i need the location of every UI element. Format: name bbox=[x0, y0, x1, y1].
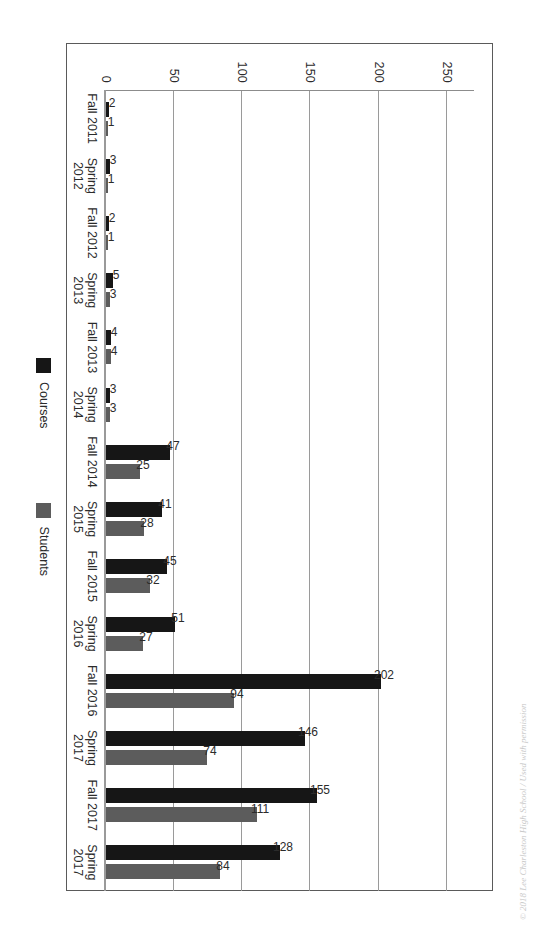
category-label: Spring 2013 bbox=[70, 258, 99, 322]
legend-label: Students bbox=[37, 527, 51, 576]
bar-group: 21Fall 2012 bbox=[106, 216, 474, 250]
bar-value-label: 5 bbox=[112, 269, 119, 281]
bar-value-label: 41 bbox=[158, 498, 171, 510]
axis-tick-label: 0 bbox=[99, 76, 113, 83]
bar-students: 3 bbox=[106, 407, 110, 422]
legend-swatch-icon bbox=[36, 358, 51, 373]
category-label: Fall 2012 bbox=[84, 201, 98, 265]
bar-group: 21Fall 2011 bbox=[106, 102, 474, 136]
bar-group: 31Spring 2012 bbox=[106, 159, 474, 193]
category-label: Fall 2015 bbox=[84, 544, 98, 608]
legend-item-students[interactable]: Students bbox=[36, 503, 51, 576]
bar-value-label: 3 bbox=[109, 288, 116, 300]
axis-tick-label: 250 bbox=[439, 62, 453, 83]
category-label: Spring 2017 bbox=[70, 716, 99, 780]
bar-value-label: 51 bbox=[171, 612, 184, 624]
category-label: Spring 2016 bbox=[70, 602, 99, 666]
bar-value-label: 3 bbox=[109, 383, 116, 395]
bar-value-label: 4 bbox=[111, 345, 118, 357]
bar-group: 155111Fall 2017 bbox=[106, 788, 474, 822]
bar-students: 28 bbox=[106, 521, 144, 536]
bar-value-label: 111 bbox=[251, 803, 269, 815]
bar-students: 74 bbox=[106, 750, 207, 765]
bars-layer: 21Fall 201131Spring 201221Fall 201253Spr… bbox=[106, 90, 474, 891]
bar-value-label: 155 bbox=[310, 784, 330, 796]
bar-value-label: 128 bbox=[273, 841, 293, 853]
plot-area: 050100150200250 21Fall 201131Spring 2012… bbox=[67, 44, 492, 890]
bar-group: 14674Spring 2017 bbox=[106, 731, 474, 765]
chart-plot-frame: 050100150200250 21Fall 201131Spring 2012… bbox=[66, 43, 493, 891]
bar-value-label: 74 bbox=[203, 745, 216, 757]
bar-courses: 41 bbox=[106, 502, 162, 517]
category-label: Spring 2015 bbox=[70, 487, 99, 551]
bar-value-label: 1 bbox=[107, 116, 114, 128]
bar-group: 12884Spring 2017 bbox=[106, 845, 474, 879]
category-label: Fall 2017 bbox=[84, 773, 98, 837]
bar-group: 33Spring 2014 bbox=[106, 388, 474, 422]
bar-courses: 155 bbox=[106, 788, 317, 803]
bar-students: 111 bbox=[106, 807, 257, 822]
bar-value-label: 4 bbox=[111, 326, 118, 338]
axis-tick-label: 150 bbox=[303, 62, 317, 83]
bar-students: 1 bbox=[106, 121, 108, 136]
axis-tick-label: 100 bbox=[235, 62, 249, 83]
bar-value-label: 2 bbox=[108, 212, 115, 224]
footnote: © 2018 Lee Charleston High School / Used… bbox=[505, 630, 531, 930]
category-label: Fall 2016 bbox=[84, 659, 98, 723]
bar-students: 32 bbox=[106, 578, 150, 593]
bar-students: 4 bbox=[106, 349, 111, 364]
category-label: Spring 2017 bbox=[70, 830, 99, 894]
bar-value-label: 2 bbox=[108, 97, 115, 109]
bar-group: 4128Spring 2015 bbox=[106, 502, 474, 536]
page-canvas: 050100150200250 21Fall 201131Spring 2012… bbox=[0, 0, 533, 934]
bar-students: 84 bbox=[106, 864, 220, 879]
category-label: Spring 2014 bbox=[70, 373, 99, 437]
axis-tick-label: 200 bbox=[371, 62, 385, 83]
bar-students: 25 bbox=[106, 464, 140, 479]
bar-value-label: 25 bbox=[136, 459, 149, 471]
bar-group: 5127Spring 2016 bbox=[106, 617, 474, 651]
bar-value-label: 45 bbox=[163, 555, 176, 567]
bar-value-label: 1 bbox=[107, 231, 114, 243]
bar-courses: 5 bbox=[106, 273, 113, 288]
chart-legend: CoursesStudents bbox=[31, 43, 57, 891]
category-label: Fall 2014 bbox=[84, 430, 98, 494]
bar-students: 1 bbox=[106, 178, 108, 193]
category-label: Fall 2013 bbox=[84, 315, 98, 379]
bar-students: 3 bbox=[106, 292, 110, 307]
category-label: Spring 2012 bbox=[70, 144, 99, 208]
bar-courses: 2 bbox=[106, 216, 109, 231]
legend-swatch-icon bbox=[36, 503, 51, 518]
bar-group: 20294Fall 2016 bbox=[106, 674, 474, 708]
bar-students: 27 bbox=[106, 636, 143, 651]
bar-value-label: 94 bbox=[230, 688, 243, 700]
category-label: Fall 2011 bbox=[84, 87, 98, 151]
bar-value-label: 84 bbox=[216, 860, 229, 872]
legend-item-courses[interactable]: Courses bbox=[36, 358, 51, 429]
bar-value-label: 32 bbox=[145, 574, 158, 586]
bar-courses: 128 bbox=[106, 845, 280, 860]
bar-value-label: 1 bbox=[107, 173, 114, 185]
legend-label: Courses bbox=[37, 382, 51, 429]
bar-value-label: 3 bbox=[109, 402, 116, 414]
bar-value-label: 28 bbox=[140, 517, 153, 529]
bar-students: 1 bbox=[106, 235, 108, 250]
rotated-page-wrapper: 050100150200250 21Fall 201131Spring 2012… bbox=[0, 0, 533, 934]
bar-value-label: 202 bbox=[374, 669, 394, 681]
axis-tick-label: 50 bbox=[167, 69, 181, 83]
footnote-text: © 2018 Lee Charleston High School / Used… bbox=[518, 703, 528, 920]
bar-group: 4532Fall 2015 bbox=[106, 559, 474, 593]
bar-value-label: 3 bbox=[109, 154, 116, 166]
bar-value-label: 47 bbox=[166, 440, 179, 452]
bar-group: 53Spring 2013 bbox=[106, 273, 474, 307]
bar-students: 94 bbox=[106, 693, 234, 708]
bar-value-label: 27 bbox=[139, 631, 152, 643]
bar-group: 44Fall 2013 bbox=[106, 330, 474, 364]
bar-value-label: 146 bbox=[297, 726, 317, 738]
bar-group: 4725Fall 2014 bbox=[106, 445, 474, 479]
bar-chart: 050100150200250 21Fall 201131Spring 2012… bbox=[27, 27, 507, 907]
